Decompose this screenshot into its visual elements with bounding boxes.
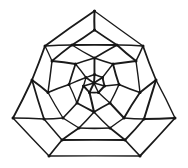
polyhedron-graph-diagram <box>0 0 188 168</box>
graph-vertex <box>51 60 54 63</box>
graph-vertex <box>61 139 64 142</box>
graph-vertex <box>123 117 126 120</box>
graph-vertex <box>142 45 145 48</box>
graph-vertex <box>44 45 47 48</box>
graph-edge <box>144 118 175 119</box>
figure-container <box>0 0 188 168</box>
graph-vertex <box>93 82 96 85</box>
graph-edge <box>44 118 63 119</box>
graph-vertex <box>116 44 119 47</box>
graph-vertex <box>112 63 115 66</box>
graph-vertex <box>143 118 146 121</box>
graph-edge <box>13 118 44 119</box>
graph-vertex <box>118 83 121 86</box>
graph-vertex <box>139 91 142 94</box>
graph-vertex <box>47 91 50 94</box>
graph-vertex <box>103 85 106 88</box>
graph-vertex <box>12 117 15 120</box>
graph-vertex <box>155 79 158 82</box>
graph-vertex <box>78 127 81 130</box>
graph-vertex <box>109 102 112 105</box>
graph-vertex <box>124 139 127 142</box>
graph-vertex <box>97 91 100 94</box>
graph-vertex <box>68 83 71 86</box>
graph-vertex <box>93 29 96 32</box>
graph-vertex <box>82 85 85 88</box>
graph-vertex <box>62 117 65 120</box>
graph-edge <box>45 45 72 46</box>
graph-edge <box>124 118 144 119</box>
graph-vertex <box>74 63 77 66</box>
graph-vertex <box>93 73 96 76</box>
graph-vertex <box>93 57 96 60</box>
graph-vertex <box>101 76 104 79</box>
graph-vertex <box>93 111 96 114</box>
graph-vertex <box>88 91 91 94</box>
graph-vertex <box>109 127 112 130</box>
graph-vertex <box>71 44 74 47</box>
graph-vertex <box>48 155 51 158</box>
graph-vertex <box>93 10 96 13</box>
graph-vertex <box>174 117 177 120</box>
graph-vertex <box>135 60 138 63</box>
graph-vertex <box>76 102 79 105</box>
graph-vertex <box>139 155 142 158</box>
graph-vertex <box>43 118 46 121</box>
graph-vertex <box>31 79 34 82</box>
graph-vertex <box>85 76 88 79</box>
